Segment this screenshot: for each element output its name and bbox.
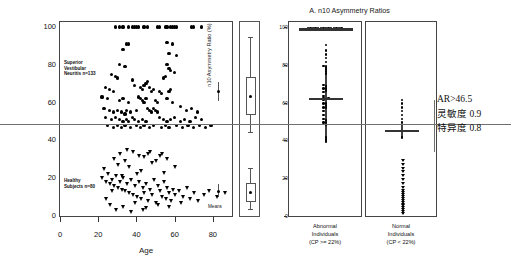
right-y-tickmark (284, 140, 287, 141)
annotation-line-ar: AR>46.5 (437, 92, 511, 107)
strip-point-normal (401, 212, 405, 215)
strip-point-abnormal (325, 57, 327, 59)
strip-point-normal (401, 99, 403, 101)
strip-point-normal (401, 106, 403, 108)
median-bar (385, 130, 419, 132)
strip-point-normal (401, 167, 405, 170)
strip-point-normal (401, 174, 405, 177)
strip-point-normal (401, 186, 405, 189)
group-label-abnormal: Abnormal Individuals (CP >= 22%) (288, 222, 362, 246)
strip-point-normal (401, 110, 403, 112)
strip-point-normal (401, 102, 403, 104)
annotation-line-sensitivity: 灵敏度 0.9 (437, 107, 511, 122)
right-y-tickmark (284, 27, 287, 28)
strip-point-normal (401, 170, 405, 173)
strip-point-normal (401, 114, 403, 116)
strip-point-abnormal (325, 53, 327, 55)
annotation-line-specificity: 特异度 0.8 (437, 121, 511, 136)
right-panel-title: A. n10 Asymmetry Ratios (262, 6, 437, 15)
figure-root: oVEMP n10 Average Asymmetry Ratio (%) 10… (0, 0, 511, 267)
strip-point-abnormal (325, 49, 327, 51)
strip-point-abnormal (325, 44, 327, 46)
strip-point-normal (401, 118, 403, 120)
strip-point-normal (401, 159, 405, 162)
strip-point-normal (401, 163, 405, 166)
median-bar (309, 98, 343, 100)
right-y-tickmark (284, 178, 287, 179)
annotation-note: AR>46.5 灵敏度 0.9 特异度 0.8 (437, 92, 511, 136)
strip-plot-normal (365, 21, 437, 217)
strip-point-normal (401, 178, 405, 181)
right-y-axis-label: n10 Asymmetry Ratio (%) (206, 0, 212, 140)
strip-point-normal (401, 182, 405, 185)
right-y-tickmark (284, 216, 287, 217)
strip-plot-abnormal (288, 21, 362, 217)
strip-point-normal (401, 136, 403, 138)
right-y-tickmark (284, 65, 287, 66)
ceiling-bar-100 (299, 28, 353, 31)
right-y-tickmark (284, 103, 287, 104)
right-y-ticks: 100806040200 (262, 0, 288, 267)
threshold-crosshair-vertical (434, 100, 435, 152)
strip-point-abnormal (325, 61, 327, 63)
group-label-normal: Normal Individuals (CP < 22%) (365, 222, 437, 246)
strip-point-abnormal (325, 140, 327, 142)
